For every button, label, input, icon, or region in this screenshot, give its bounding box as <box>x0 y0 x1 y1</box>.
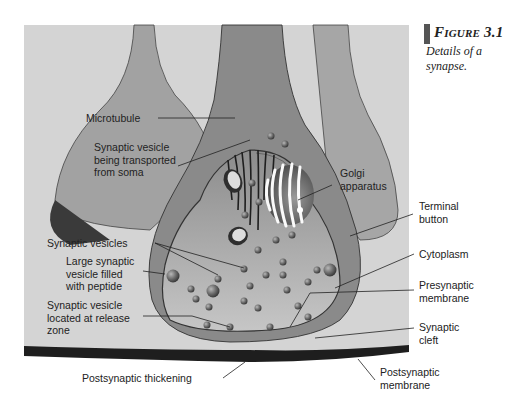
caption-bar <box>424 24 430 44</box>
label-release-zone-vesicle: Synaptic vesicle located at release zone <box>47 299 130 337</box>
label-microtubule: Microtubule <box>86 112 140 125</box>
label-postsynaptic-thickening: Postsynaptic thickening <box>82 372 192 385</box>
synapse-figure: Microtubule Synaptic vesicle being trans… <box>0 0 520 407</box>
label-cytoplasm: Cytoplasm <box>419 248 469 261</box>
label-postsynaptic-membrane: Postsynaptic membrane <box>380 366 440 391</box>
label-synaptic-cleft: Synaptic cleft <box>419 321 459 346</box>
label-terminal-button: Terminal button <box>419 200 459 225</box>
label-synaptic-vesicles: Synaptic vesicles <box>47 237 128 250</box>
figure-title: Figure 3.1 <box>434 24 503 41</box>
label-vesicle-transported: Synaptic vesicle being transported from … <box>94 141 176 179</box>
label-large-vesicle: Large synaptic vesicle filled with pepti… <box>66 255 134 293</box>
label-golgi: Golgi apparatus <box>340 167 387 192</box>
label-presynaptic-membrane: Presynaptic membrane <box>419 279 474 304</box>
figure-subtitle: Details of a synapse. <box>426 44 520 74</box>
